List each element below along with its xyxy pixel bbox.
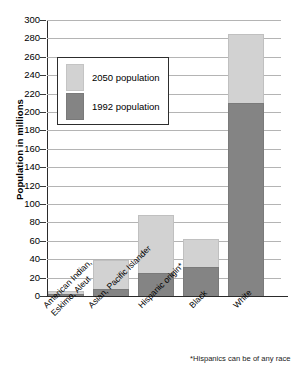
y-tick-label: 280	[0, 33, 40, 43]
y-tick-mark	[40, 296, 46, 297]
y-tick-label: 200	[0, 107, 40, 117]
legend-label-2050: 2050 population	[92, 72, 160, 83]
legend-swatch-2050-icon	[66, 64, 84, 91]
y-tick-mark	[40, 57, 46, 58]
bar-segment-1992[interactable]	[228, 103, 264, 296]
bar-segment-2050[interactable]	[228, 34, 264, 103]
bar-group[interactable]	[228, 34, 264, 296]
y-tick-label: 300	[0, 15, 40, 25]
legend-item-2050: 2050 population	[66, 64, 160, 90]
y-tick-mark	[40, 149, 46, 150]
legend-swatch-1992-icon	[66, 93, 84, 120]
y-tick-mark	[40, 112, 46, 113]
population-bar-chart: Population in millions 30028026024022020…	[0, 0, 297, 391]
footnote: *Hispanics can be of any race	[190, 354, 290, 363]
y-tick-mark	[40, 75, 46, 76]
y-tick-mark	[40, 222, 46, 223]
y-tick-label: 60	[0, 236, 40, 246]
y-tick-label: 140	[0, 162, 40, 172]
y-tick-label: 180	[0, 125, 40, 135]
y-tick-label: 40	[0, 254, 40, 264]
chart-legend: 2050 population 1992 population	[57, 57, 169, 125]
y-tick-mark	[40, 186, 46, 187]
y-tick-label: 20	[0, 273, 40, 283]
y-tick-label: 100	[0, 199, 40, 209]
y-tick-mark	[40, 20, 46, 21]
bar-segment-2050[interactable]	[183, 239, 219, 267]
y-tick-label: 120	[0, 181, 40, 191]
legend-label-1992: 1992 population	[92, 101, 160, 112]
y-tick-mark	[40, 259, 46, 260]
y-tick-label: 240	[0, 70, 40, 80]
y-tick-mark	[40, 167, 46, 168]
y-tick-mark	[40, 241, 46, 242]
y-tick-label: 160	[0, 144, 40, 154]
y-tick-label: 220	[0, 89, 40, 99]
y-tick-mark	[40, 94, 46, 95]
y-tick-mark	[40, 130, 46, 131]
y-tick-label: 0	[0, 291, 40, 301]
legend-item-1992: 1992 population	[66, 93, 160, 119]
gridline	[47, 20, 281, 21]
y-tick-mark	[40, 38, 46, 39]
y-tick-label: 80	[0, 217, 40, 227]
y-tick-mark	[40, 204, 46, 205]
y-tick-mark	[40, 278, 46, 279]
y-tick-label: 260	[0, 52, 40, 62]
